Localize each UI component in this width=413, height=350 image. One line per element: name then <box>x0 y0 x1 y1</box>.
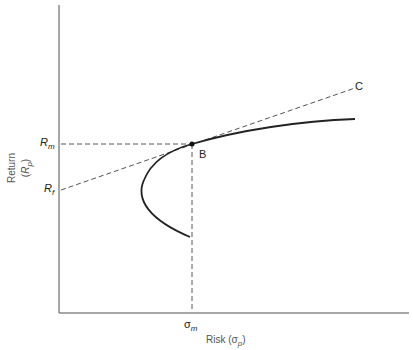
point-b-marker <box>190 142 195 147</box>
point-c-label: C <box>355 80 363 92</box>
point-b-label: B <box>199 148 206 160</box>
y-symbol: R <box>20 167 31 174</box>
y-axis-label-text: Return <box>5 133 19 203</box>
efficient-frontier-diagram: Return (Rp) Rm Rf B C σm Risk (σp) <box>0 0 413 350</box>
sigma-m-label: σm <box>184 318 197 333</box>
sigma-m-sub: m <box>191 324 198 333</box>
y-symbol-sub: p <box>25 162 34 166</box>
sigma-m-symbol: σ <box>184 318 191 330</box>
x-axis-label: Risk (σp) <box>206 334 246 348</box>
efficient-frontier-curve <box>141 119 355 237</box>
y-axis-label-symbol: (Rp) <box>19 133 37 203</box>
y-axis-label: Return (Rp) <box>5 133 37 203</box>
rf-label: Rf <box>44 182 54 197</box>
diagram-canvas <box>0 0 413 350</box>
rf-symbol: R <box>44 182 52 194</box>
rm-label: Rm <box>40 136 55 151</box>
rf-sub: f <box>52 188 54 197</box>
x-symbol-sub: p <box>238 339 242 348</box>
rm-symbol: R <box>40 136 48 148</box>
x-axis-label-text: Risk <box>206 334 225 345</box>
rm-sub: m <box>48 142 55 151</box>
